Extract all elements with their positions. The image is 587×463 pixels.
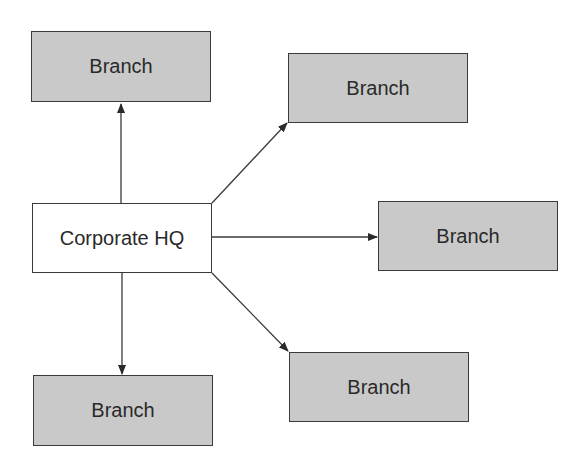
arrow-to-top-right <box>212 123 287 203</box>
branch-label: Branch <box>91 399 154 422</box>
branch-node-top-left: Branch <box>31 31 211 102</box>
branch-node-top-right: Branch <box>288 53 468 123</box>
branch-label: Branch <box>346 77 409 100</box>
corporate-hq-node: Corporate HQ <box>32 203 212 273</box>
branch-label: Branch <box>436 225 499 248</box>
arrow-to-bottom-right <box>212 273 288 351</box>
hq-label: Corporate HQ <box>60 227 185 250</box>
branch-node-bottom-left: Branch <box>33 375 213 446</box>
branch-node-middle-right: Branch <box>378 201 558 271</box>
branch-label: Branch <box>347 376 410 399</box>
branch-label: Branch <box>89 55 152 78</box>
branch-node-bottom-right: Branch <box>289 352 469 422</box>
